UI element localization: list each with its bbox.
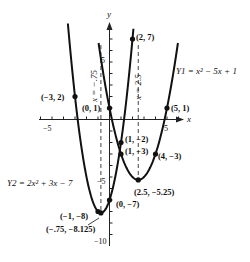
point-label-4-m3: (4, −3): [158, 151, 181, 161]
data-point: [98, 210, 103, 215]
data-point: [164, 105, 169, 110]
y-axis-label: y: [106, 9, 111, 19]
data-point: [118, 151, 123, 156]
point-label-vertex1: (2.5, −5.25): [134, 187, 174, 197]
point-label-0-1: (0, 1): [82, 103, 101, 113]
data-point: [107, 197, 112, 202]
data-point: [130, 36, 135, 41]
y-axis-arrow-icon: [107, 22, 113, 30]
y-tick-label-neg10: −10: [94, 237, 107, 246]
parabola-graph: x y −5 5 5 −5 −10 x = −.75 x = 2.5 Y1 = …: [0, 0, 250, 262]
x-tick-label-5: 5: [164, 124, 168, 133]
x-tick-label-neg5: −5: [43, 124, 52, 133]
y1-equation-label: Y1 = x² − 5x + 1: [176, 66, 237, 76]
symmetry-label-right: x = 2.5: [133, 74, 143, 101]
x-axis-arrow-icon: [176, 117, 184, 123]
point-label-vertex2: (−.75, −8.125): [46, 224, 96, 234]
data-point: [107, 105, 112, 110]
data-point: [118, 140, 123, 145]
point-label-5-1: (5, 1): [171, 103, 190, 113]
point-label-1-m3: (1, −3): [125, 146, 148, 156]
point-label-2-7: (2, 7): [136, 32, 155, 42]
data-point: [136, 177, 141, 182]
point-label-1-m2: (1, −2): [125, 134, 148, 144]
symmetry-label-left: x = −.75: [89, 70, 99, 103]
x-axis-label: x: [186, 114, 191, 124]
data-point: [72, 94, 77, 99]
point-label-0-m7: (0, −7): [116, 199, 139, 209]
point-label-m3-2: (−3, 2): [41, 92, 64, 102]
y2-equation-label: Y2 = 2x² + 3x − 7: [7, 178, 73, 188]
point-label-m1-m8: (−1, −8): [60, 211, 88, 221]
